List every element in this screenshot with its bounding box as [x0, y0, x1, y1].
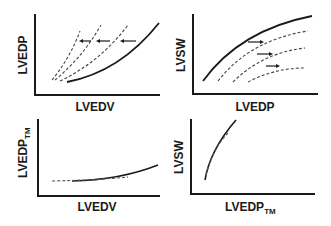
arrow-right-icon [266, 64, 280, 68]
y-axis-label: LVSW [174, 37, 188, 71]
dashed-curve-3 [248, 68, 304, 82]
arrow-right-icon [248, 40, 264, 44]
panel-top-right: LVSW LVEDP [174, 14, 318, 114]
x-axis-label: LVEDV [77, 200, 116, 214]
arrow-left-icon [120, 39, 136, 43]
arrow-right-icon [257, 52, 273, 56]
arrow-left-icon [79, 39, 91, 43]
x-axis-label: LVEDV [75, 100, 114, 114]
x-axis-label: LVEDPTM [225, 200, 276, 216]
dashed-curve [206, 133, 228, 175]
panel-bottom-left: LVEDPTM LVEDV [16, 119, 160, 214]
y-axis-label: LVSW [172, 139, 186, 173]
y-axis-label: LVEDP [16, 35, 30, 74]
panel-bottom-right: LVSW LVEDPTM [172, 119, 315, 216]
figure-canvas: LVEDP LVEDV LVSW LVEDP LVED [0, 0, 331, 226]
panel-top-left: LVEDP LVEDV [16, 14, 160, 114]
solid-curve [205, 120, 236, 180]
dashed-curve-1 [218, 31, 308, 81]
arrow-left-icon [96, 39, 110, 43]
y-axis-label: LVEDPTM [16, 127, 32, 178]
solid-curve [67, 23, 159, 82]
solid-curve [203, 16, 312, 81]
x-axis-label: LVEDP [235, 100, 274, 114]
